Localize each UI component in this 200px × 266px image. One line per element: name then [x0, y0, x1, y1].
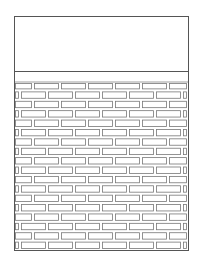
- brick: [143, 120, 167, 126]
- brick: [16, 176, 32, 182]
- brick: [62, 195, 86, 201]
- brick: [130, 148, 154, 154]
- brick: [35, 84, 59, 89]
- brick: [184, 242, 187, 248]
- brick: [89, 195, 113, 201]
- brick: [49, 205, 73, 211]
- brick: [35, 195, 59, 201]
- brick: [184, 205, 187, 211]
- brick: [76, 148, 100, 154]
- brick: [184, 223, 187, 229]
- brick: [170, 158, 187, 164]
- brick: [116, 84, 140, 89]
- brick: [143, 101, 167, 107]
- brick: [62, 233, 86, 239]
- brick: [89, 214, 113, 220]
- brick: [143, 176, 167, 182]
- brick: [103, 167, 127, 173]
- brick: [89, 158, 113, 164]
- brick: [16, 233, 32, 239]
- brick: [157, 205, 181, 211]
- brick: [89, 120, 113, 126]
- brick: [76, 186, 100, 192]
- brick: [16, 120, 32, 126]
- brick: [22, 167, 46, 173]
- brick-wall-diagram: [0, 0, 200, 266]
- brick: [49, 242, 73, 248]
- brick: [22, 148, 46, 154]
- brick: [49, 92, 73, 98]
- brick: [143, 158, 167, 164]
- brick: [184, 129, 187, 135]
- brick: [22, 92, 46, 98]
- brick: [170, 101, 187, 107]
- brick: [116, 214, 140, 220]
- brick: [16, 242, 19, 248]
- outer-frame: [15, 17, 189, 251]
- brick: [103, 186, 127, 192]
- brick: [89, 176, 113, 182]
- brick: [16, 92, 19, 98]
- brick: [49, 223, 73, 229]
- brick: [157, 111, 181, 117]
- brick: [16, 148, 19, 154]
- brick: [62, 120, 86, 126]
- brick: [103, 223, 127, 229]
- brick: [22, 205, 46, 211]
- brick: [130, 186, 154, 192]
- brick: [22, 242, 46, 248]
- brick: [76, 205, 100, 211]
- brick: [103, 242, 127, 248]
- brick: [35, 233, 59, 239]
- brick: [170, 84, 187, 89]
- brick: [76, 111, 100, 117]
- brick: [143, 195, 167, 201]
- brick: [184, 111, 187, 117]
- brick: [49, 129, 73, 135]
- brick: [170, 195, 187, 201]
- brick: [103, 205, 127, 211]
- brick: [116, 233, 140, 239]
- brick: [16, 139, 32, 145]
- brick: [16, 129, 19, 135]
- brick: [130, 129, 154, 135]
- brick: [62, 139, 86, 145]
- brick-field: [14, 81, 188, 249]
- brick: [130, 223, 154, 229]
- mortar-band: [14, 81, 188, 83]
- brick: [157, 129, 181, 135]
- brick: [35, 214, 59, 220]
- brick: [157, 167, 181, 173]
- brick: [184, 186, 187, 192]
- brick: [35, 158, 59, 164]
- brick: [170, 120, 187, 126]
- brick: [143, 84, 167, 89]
- brick: [16, 214, 32, 220]
- brick: [103, 129, 127, 135]
- brick: [35, 139, 59, 145]
- brick: [35, 176, 59, 182]
- brick: [62, 84, 86, 89]
- brick: [116, 120, 140, 126]
- brick: [130, 205, 154, 211]
- brick: [16, 167, 19, 173]
- brick: [130, 92, 154, 98]
- brick: [157, 186, 181, 192]
- brick: [116, 195, 140, 201]
- brick: [16, 195, 32, 201]
- brick: [16, 158, 32, 164]
- brick: [49, 167, 73, 173]
- brick: [62, 101, 86, 107]
- brick: [22, 111, 46, 117]
- brick: [76, 129, 100, 135]
- brick: [62, 158, 86, 164]
- brick: [16, 205, 19, 211]
- brick: [49, 148, 73, 154]
- brick: [89, 84, 113, 89]
- brick: [103, 148, 127, 154]
- brick: [184, 148, 187, 154]
- brick: [35, 120, 59, 126]
- brick: [130, 242, 154, 248]
- brick: [103, 111, 127, 117]
- brick: [22, 129, 46, 135]
